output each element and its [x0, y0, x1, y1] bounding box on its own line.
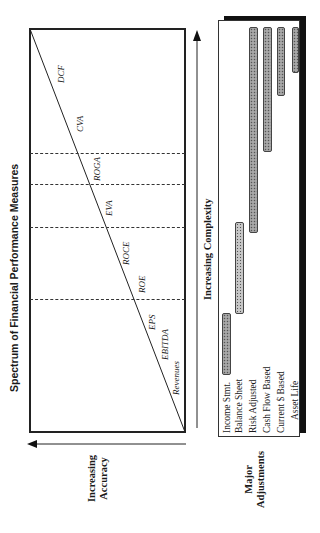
measure-label-revenues: Revenues	[171, 361, 181, 395]
adjustments-label-line2: Adjustments	[255, 451, 267, 508]
bar-current-dollar-based	[277, 27, 285, 96]
adjustment-label-cash-flow-based: Cash Flow Based	[262, 367, 272, 434]
bar-balance-sheet	[235, 222, 244, 314]
adjustment-label-risk-adjusted: Risk Adjusted	[248, 379, 258, 433]
measure-label-dcf: DCF	[56, 65, 66, 83]
accuracy-label-line2: Accuracy	[98, 455, 110, 502]
measure-label-roce: ROCE	[121, 242, 131, 266]
complexity-axis-label: Increasing Complexity	[202, 198, 214, 300]
measure-label-roe: ROE	[137, 276, 147, 294]
bar-cash-flow-based	[263, 27, 272, 152]
adjustments-axis-label: Major Adjustments	[243, 451, 267, 508]
adjustment-label-current-dollar-based: Current $ Based	[276, 371, 286, 433]
separator-dashed	[30, 227, 185, 228]
adjustments-label-line1: Major	[243, 451, 255, 508]
bar-risk-adjusted	[249, 27, 258, 233]
separator-dashed	[30, 153, 185, 154]
accuracy-axis-label: Increasing Accuracy	[86, 455, 110, 502]
measure-label-cva: CVA	[75, 116, 85, 132]
bar-asset-life	[292, 27, 299, 73]
measure-label-roga: ROGA	[92, 157, 102, 181]
accuracy-label-line1: Increasing	[86, 455, 98, 502]
adjustment-label-income-stmt: Income Stmt.	[222, 382, 232, 433]
measure-label-ebitda: EBITDA	[160, 329, 170, 360]
adjustment-label-asset-life: Asset Life	[290, 381, 300, 420]
measure-label-eva: EVA	[104, 200, 114, 216]
adjustment-label-balance-sheet: Balance Sheet	[234, 379, 244, 433]
separator-dashed	[30, 184, 185, 185]
measure-label-eps: EPS	[147, 315, 157, 331]
separator-dashed	[30, 299, 185, 300]
bar-income-stmt	[222, 313, 231, 375]
